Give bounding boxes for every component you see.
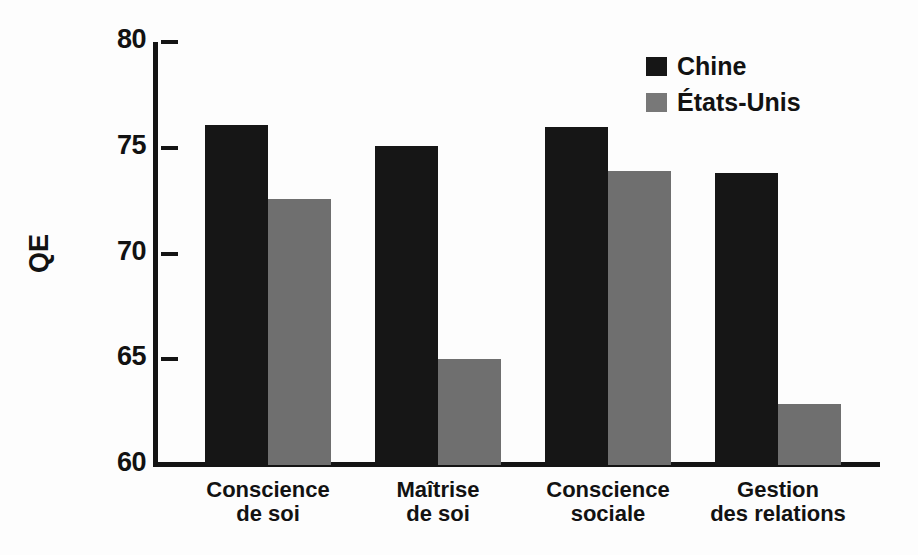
bar-chine-0 <box>205 125 268 466</box>
legend-swatch-icon <box>646 57 667 76</box>
y-axis-tick-labels: 6065707580 <box>70 0 146 555</box>
bar--tats-unis-0 <box>268 199 331 465</box>
legend-label: États-Unis <box>677 88 801 117</box>
bar--tats-unis-1 <box>438 359 501 465</box>
y-axis-tick-label: 80 <box>82 24 146 55</box>
bar-chine-1 <box>375 146 438 465</box>
y-axis-tick-label: 65 <box>82 341 146 372</box>
bar--tats-unis-3 <box>778 404 841 465</box>
y-axis-tick-label: 75 <box>82 130 146 161</box>
legend-swatch-icon <box>646 93 667 112</box>
y-axis-title: QE <box>24 209 55 299</box>
x-axis-label-3: Gestion des relations <box>668 478 888 526</box>
bar--tats-unis-2 <box>608 171 671 465</box>
y-axis-tick-label: 70 <box>82 236 146 267</box>
chart-legend: ChineÉtats-Unis <box>646 48 801 120</box>
bar-chine-2 <box>545 127 608 465</box>
chart-root: 6065707580 QE Conscience de soiMaîtrise … <box>0 0 918 555</box>
legend-item-1: États-Unis <box>646 84 801 120</box>
legend-label: Chine <box>677 52 746 81</box>
y-axis-tick-label: 60 <box>82 447 146 478</box>
legend-item-0: Chine <box>646 48 801 84</box>
bar-chine-3 <box>715 173 778 465</box>
